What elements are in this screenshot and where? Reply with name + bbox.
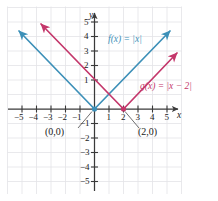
x-tick-label-5: 5	[165, 113, 170, 122]
y-tick-label--5: −5	[80, 177, 90, 186]
point-label-origin: (0,0)	[45, 127, 64, 137]
function-label-f: f(x) = |x|	[108, 35, 142, 45]
x-tick-label--3: −3	[43, 113, 53, 122]
y-tick-label-3: 3	[84, 47, 89, 56]
vertex-marker-origin	[92, 106, 97, 111]
vertex-marker-two-zero	[121, 106, 126, 111]
x-tick-label--5: −5	[14, 113, 24, 122]
x-tick-label-3: 3	[136, 113, 141, 122]
x-tick-label-2: 2	[121, 113, 126, 122]
y-tick-label-1: 1	[84, 76, 89, 85]
y-tick-label--3: −3	[80, 148, 90, 157]
y-tick-label-4: 4	[84, 32, 89, 41]
y-tick-label--4: −4	[80, 163, 90, 172]
y-axis-label: y	[89, 11, 93, 21]
y-tick-label--1: −1	[80, 119, 90, 128]
coordinate-plane-svg	[0, 0, 218, 201]
x-axis-label: x	[177, 111, 181, 121]
y-tick-label--2: −2	[80, 134, 90, 143]
y-tick-label-5: 5	[84, 18, 89, 27]
absolute-value-graph-figure: −5 −4 −3 −2 −1 1 2 3 4 5 5 4 3 2 1 −1 −2…	[0, 0, 218, 201]
x-tick-label-4: 4	[150, 113, 155, 122]
function-label-g: g(x) = |x − 2|	[140, 82, 192, 92]
point-label-two-zero: (2,0)	[138, 127, 157, 137]
y-tick-label-2: 2	[84, 61, 89, 70]
x-tick-label--4: −4	[29, 113, 39, 122]
x-tick-label-1: 1	[107, 113, 112, 122]
x-tick-label--2: −2	[58, 113, 68, 122]
